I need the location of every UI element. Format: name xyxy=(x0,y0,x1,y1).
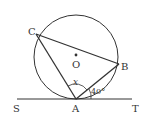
label-c: C xyxy=(28,26,36,37)
label-s: S xyxy=(13,103,20,114)
label-angle-x: x xyxy=(73,77,78,87)
label-b: B xyxy=(121,61,128,72)
label-angle-40: 40° xyxy=(91,87,105,96)
label-a: A xyxy=(71,103,80,114)
label-t: T xyxy=(132,103,139,114)
segment-ca xyxy=(36,34,76,99)
center-dot xyxy=(75,54,78,57)
label-o: O xyxy=(72,59,80,70)
geometry-figure: C B O A S T x 40° xyxy=(0,0,151,119)
circle-tangent-diagram: C B O A S T x 40° xyxy=(0,0,151,119)
